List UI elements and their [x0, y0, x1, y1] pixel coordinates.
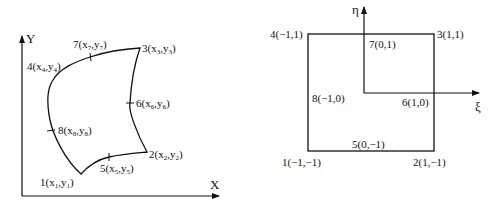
parent-node-4-label: 4(−1,1): [270, 28, 303, 41]
xi-axis-label: ξ: [475, 99, 481, 114]
parent-node-7-label: 7(0,1): [369, 38, 396, 51]
node-6-label: 6(x6,y6): [136, 97, 170, 111]
y-axis-label: Y: [26, 31, 36, 46]
eta-axis-label: η: [352, 2, 359, 17]
node-4-label: 4(x4,y4): [27, 60, 61, 74]
node-7-tick: [90, 53, 91, 61]
node-5-label: 5(x5,y5): [100, 162, 134, 176]
parent-node-1-label: 1(−1,−1): [282, 156, 321, 169]
node-8-tick: [47, 130, 55, 131]
node-8-label: 8(x8,y8): [58, 124, 92, 138]
parent-element-panel: η ξ 1(−1,−1) 2(1,−1) 3(1,1) 4(−1,1) 5(0,…: [270, 2, 481, 169]
parent-node-8-label: 8(−1,0): [312, 92, 345, 105]
parent-node-6-label: 6(1,0): [402, 96, 429, 109]
node-1-label: 1(x1,y1): [40, 176, 74, 190]
node-3-label: 3(x3,y3): [142, 42, 176, 56]
parent-node-5-label: 5(0,−1): [352, 138, 385, 151]
x-axis-label: X: [210, 177, 220, 192]
diagram-canvas: Y X 1(x1,y1) 2(x2,y2) 3(x3,y3) 4(x4,y4) …: [0, 0, 495, 206]
parent-node-3-label: 3(1,1): [437, 28, 464, 41]
node-7-label: 7(x7,y7): [73, 38, 107, 52]
physical-element-panel: Y X 1(x1,y1) 2(x2,y2) 3(x3,y3) 4(x4,y4) …: [22, 31, 220, 196]
parent-node-2-label: 2(1,−1): [413, 156, 446, 169]
node-2-label: 2(x2,y2): [149, 148, 183, 162]
element-boundary: [48, 48, 147, 174]
